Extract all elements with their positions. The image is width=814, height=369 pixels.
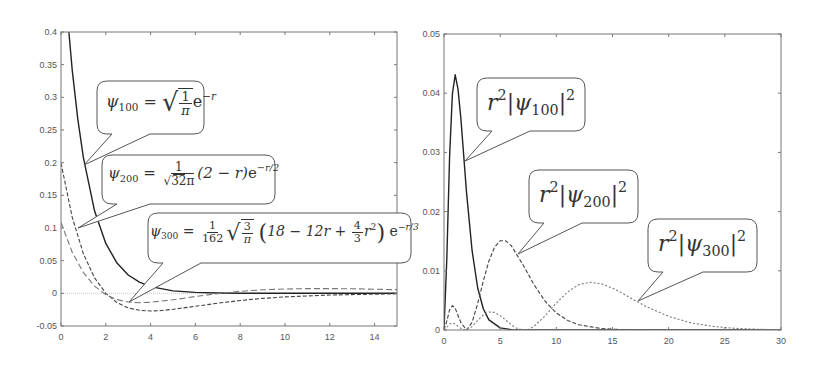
bubble-r2psi200 <box>518 170 638 254</box>
x-tick-label: 8 <box>238 332 243 342</box>
x-tick-label: 12 <box>325 332 335 342</box>
bubble-r2psi100 <box>465 78 585 161</box>
y-tick-label: 0.05 <box>39 256 57 266</box>
x-tick-label: 2 <box>103 332 108 342</box>
y-tick-label: 0.03 <box>422 147 440 157</box>
y-tick-label: 0.25 <box>39 125 57 135</box>
x-tick-label: 0 <box>441 336 446 346</box>
series-r2_psi_300_sq <box>444 282 781 330</box>
y-tick-label: 0.3 <box>44 92 57 102</box>
x-tick-label: 4 <box>148 332 153 342</box>
x-tick-label: 25 <box>720 336 730 346</box>
x-tick-label: 5 <box>498 336 503 346</box>
y-tick-label: 0.2 <box>44 158 57 168</box>
bubble-r2psi300 <box>638 219 757 301</box>
y-tick-label: 0.1 <box>44 223 57 233</box>
x-tick-label: 15 <box>607 336 617 346</box>
y-tick-label: 0.05 <box>422 29 440 39</box>
x-tick-label: 20 <box>664 336 674 346</box>
x-tick-label: 10 <box>280 332 290 342</box>
y-tick-label: 0.02 <box>422 207 440 217</box>
x-tick-label: 6 <box>193 332 198 342</box>
y-tick-label: 0.35 <box>39 60 57 70</box>
y-tick-label: 0.04 <box>422 88 440 98</box>
y-tick-label: 0.4 <box>44 27 57 37</box>
y-tick-label: -0.05 <box>36 321 57 331</box>
y-tick-label: 0.15 <box>39 190 57 200</box>
y-tick-label: 0 <box>52 288 57 298</box>
figure: 02468101214-0.0500.050.10.150.20.250.30.… <box>0 0 814 369</box>
y-tick-label: 0.01 <box>422 266 440 276</box>
x-tick-label: 0 <box>58 332 63 342</box>
bubble-psi100 <box>84 81 204 165</box>
x-tick-label: 14 <box>370 332 380 342</box>
callout-bubbles <box>78 78 757 302</box>
y-tick-label: 0 <box>435 325 440 335</box>
x-tick-label: 10 <box>551 336 561 346</box>
x-tick-label: 30 <box>776 336 786 346</box>
